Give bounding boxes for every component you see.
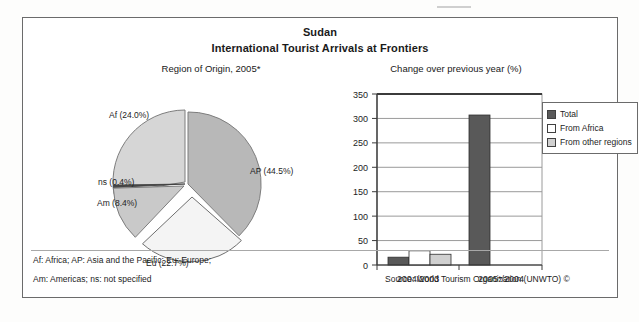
figure-subtitle: International Tourist Arrivals at Fronti… xyxy=(23,42,617,54)
scan-artifact-mark xyxy=(437,6,471,8)
y-tick-100: 100 xyxy=(353,212,368,222)
legend-label-from-africa: From Africa xyxy=(560,123,603,133)
figure-container: Sudan International Tourist Arrivals at … xyxy=(22,17,618,298)
bar-2004-total xyxy=(388,257,409,265)
legend-swatch-from-africa xyxy=(547,124,556,133)
y-axis-ticks xyxy=(372,94,377,265)
pie-label-am: Am (8.4%) xyxy=(97,198,137,208)
source-attribution: Source: World Tourism Organization (UNWT… xyxy=(385,274,570,284)
footnote-abbreviations-line2: Am: Americas; ns: not specified xyxy=(33,274,152,284)
legend-item-from-africa: From Africa xyxy=(547,121,633,135)
bar-chart: 350 300 250 200 150 100 50 0 2004/20 xyxy=(335,80,555,285)
legend-swatch-total xyxy=(547,110,556,119)
pie-label-ns: ns (0.4%) xyxy=(98,177,134,187)
bar-chart-svg: 350 300 250 200 150 100 50 0 2004/20 xyxy=(335,80,555,285)
y-tick-300: 300 xyxy=(353,114,368,124)
bar-2004-from-other-regions xyxy=(430,254,451,265)
legend-label-total: Total xyxy=(560,109,578,119)
legend-label-from-other-regions: From other regions xyxy=(560,137,632,147)
bar-chart-legend: Total From Africa From other regions xyxy=(542,102,638,154)
y-tick-150: 150 xyxy=(353,187,368,197)
footer-divider xyxy=(31,250,609,251)
pie-label-ap: AP (44.5%) xyxy=(250,166,293,176)
y-tick-200: 200 xyxy=(353,163,368,173)
figure-title: Sudan xyxy=(23,26,617,38)
y-tick-350: 350 xyxy=(353,90,368,100)
pie-label-af: Af (24.0%) xyxy=(109,110,149,120)
y-tick-50: 50 xyxy=(358,236,368,246)
pie-chart-caption: Region of Origin, 2005* xyxy=(101,63,321,74)
y-tick-0: 0 xyxy=(363,261,368,271)
bar-chart-caption: Change over previous year (%) xyxy=(356,63,556,74)
footnote-abbreviations-line1: Af: Africa; AP: Asia and the Pacific; Eu… xyxy=(33,255,211,265)
legend-item-from-other-regions: From other regions xyxy=(547,135,633,149)
bar-2005-total xyxy=(469,115,490,265)
y-tick-250: 250 xyxy=(353,138,368,148)
legend-swatch-from-other-regions xyxy=(547,138,556,147)
bar-2004-from-africa xyxy=(409,251,430,265)
plot-area xyxy=(377,94,542,265)
legend-item-total: Total xyxy=(547,107,633,121)
